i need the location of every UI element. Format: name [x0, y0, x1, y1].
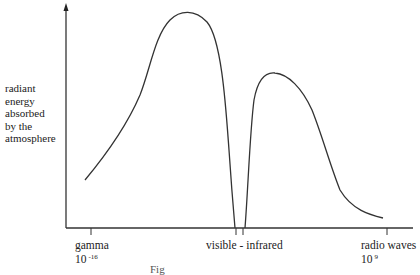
tick-value: 10-16 [75, 251, 109, 265]
y-label-line: radiant [5, 82, 56, 95]
absorption-curve-peak-2 [245, 73, 383, 228]
y-label-line: by the [5, 120, 56, 133]
tick-name: gamma [75, 239, 109, 251]
tick-name: visible - infrared [206, 239, 283, 251]
x-tick-label-radio: radio waves 109 [361, 239, 416, 265]
y-label-line: absorbed [5, 107, 56, 120]
x-tick-label-visible-infrared: visible - infrared [206, 239, 283, 251]
tick-base: 10 [361, 253, 373, 265]
tick-name: radio waves [361, 239, 416, 251]
y-label-line: energy [5, 95, 56, 108]
absorption-curve-peak-1 [85, 12, 235, 228]
figure-caption: Fig [150, 263, 165, 275]
tick-exponent: 9 [375, 253, 379, 261]
tick-base: 10 [75, 253, 87, 265]
tick-exponent: -16 [89, 253, 98, 261]
tick-value: 109 [361, 251, 416, 265]
y-axis-arrow-icon [64, 3, 69, 11]
y-label-line: atmosphere [5, 132, 56, 145]
y-axis-label: radiant energy absorbed by the atmospher… [5, 82, 56, 145]
x-tick-label-gamma: gamma 10-16 [75, 239, 109, 265]
